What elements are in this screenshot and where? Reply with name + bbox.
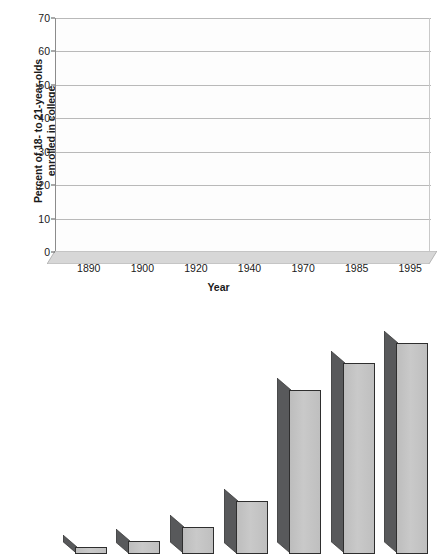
x-tick-label-1970: 1970 bbox=[273, 262, 333, 274]
y-tick-mark-20 bbox=[51, 185, 55, 186]
bar-front-face-1890 bbox=[75, 547, 107, 554]
bar-front-face-1970 bbox=[289, 390, 321, 554]
x-tick-label-1920: 1920 bbox=[166, 262, 226, 274]
y-tick-mark-60 bbox=[51, 51, 55, 52]
y-tick-mark-50 bbox=[51, 84, 55, 85]
y-tick-mark-40 bbox=[51, 118, 55, 119]
x-tick-label-1900: 1900 bbox=[112, 262, 172, 274]
x-tick-label-1985: 1985 bbox=[327, 262, 387, 274]
bar-front-face-1920 bbox=[182, 527, 214, 554]
x-tick-label-1940: 1940 bbox=[220, 262, 280, 274]
x-axis-title: Year bbox=[0, 281, 437, 293]
bar-front-face-1940 bbox=[236, 501, 268, 554]
y-tick-mark-0 bbox=[51, 252, 55, 253]
y-tick-mark-70 bbox=[51, 18, 55, 19]
y-tick-mark-30 bbox=[51, 151, 55, 152]
x-tick-label-1890: 1890 bbox=[59, 262, 119, 274]
y-tick-mark-10 bbox=[51, 218, 55, 219]
bar-front-face-1985 bbox=[343, 363, 375, 554]
x-tick-label-1995: 1995 bbox=[380, 262, 437, 274]
bar-front-face-1995 bbox=[396, 343, 428, 554]
bar-front-face-1900 bbox=[128, 541, 160, 554]
